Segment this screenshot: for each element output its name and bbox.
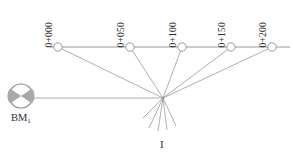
station-label-0-050: 0+050 xyxy=(117,22,127,47)
instrument-label: I xyxy=(160,139,164,150)
sight-ray-group xyxy=(58,47,272,98)
instrument-point xyxy=(162,97,164,99)
station-circle-0-150[interactable] xyxy=(227,43,235,51)
benchmark-symbol xyxy=(7,84,34,108)
station-label-0-150: 0+150 xyxy=(218,22,228,47)
station-label-0-000: 0+000 xyxy=(45,22,55,47)
sight-ray-0-000 xyxy=(58,47,163,98)
station-label-0-200: 0+200 xyxy=(259,22,269,47)
benchmark-label-subscript: 1 xyxy=(27,117,31,125)
station-label-0-100: 0+100 xyxy=(169,22,179,47)
levelling-survey-diagram: 0+0000+0500+1000+1500+200 BM1 I xyxy=(0,0,293,159)
station-circle-0-000[interactable] xyxy=(54,43,62,51)
sight-ray-0-150 xyxy=(163,47,231,98)
station-circle-0-100[interactable] xyxy=(178,43,186,51)
station-circle-0-050[interactable] xyxy=(126,43,134,51)
instrument-tail-ray-5 xyxy=(143,98,163,118)
benchmark-label: BM1 xyxy=(11,113,31,124)
station-circle-0-200[interactable] xyxy=(268,43,276,51)
benchmark-label-text: BM xyxy=(11,112,27,123)
instrument-tail-ray-group xyxy=(143,98,176,131)
instrument-marker xyxy=(162,97,164,99)
